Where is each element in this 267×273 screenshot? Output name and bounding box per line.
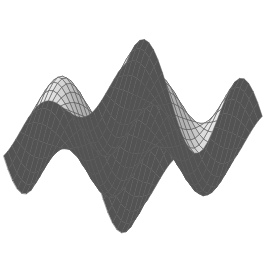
surface-plot-figure <box>0 0 267 273</box>
surface-plot-canvas <box>0 0 267 273</box>
